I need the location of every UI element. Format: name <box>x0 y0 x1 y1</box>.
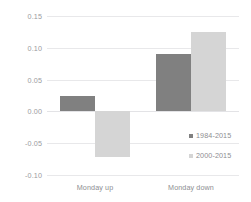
bar-chart: 0.150.100.050.00-0.05-0.10 Monday upMond… <box>0 0 251 202</box>
legend-item-label: 1984-2015 <box>196 131 231 140</box>
y-axis-tick-label: 0.15 <box>28 12 42 21</box>
legend-swatch-icon <box>189 134 193 138</box>
legend-item-label: 2000-2015 <box>196 151 231 160</box>
y-axis-tick-label: 0.00 <box>28 107 42 116</box>
zero-axis-line <box>47 111 239 112</box>
bar <box>156 54 191 111</box>
legend-swatch-icon <box>189 154 193 158</box>
bar <box>60 96 95 111</box>
y-axis-tick-label: 0.10 <box>28 43 42 52</box>
y-axis-tick-label: -0.10 <box>25 171 42 180</box>
chart-legend: 1984-20152000-2015 <box>189 131 231 160</box>
x-axis-tick-label: Monday up <box>77 183 113 192</box>
y-axis-tick-label: 0.05 <box>28 75 42 84</box>
x-axis-tick-label: Monday down <box>168 183 214 192</box>
y-axis-tick-label: -0.05 <box>25 139 42 148</box>
legend-item[interactable]: 1984-2015 <box>189 131 231 140</box>
gridline <box>47 16 239 17</box>
bar <box>191 32 226 112</box>
bar <box>95 111 130 157</box>
gridline <box>47 175 239 176</box>
legend-item[interactable]: 2000-2015 <box>189 151 231 160</box>
